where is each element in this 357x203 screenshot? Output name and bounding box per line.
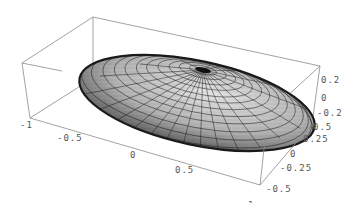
x-tick: 0.5 (175, 165, 194, 175)
z-tick: -0.2 (317, 108, 343, 118)
x-tick: -0.5 (57, 133, 83, 143)
x-tick: -1 (20, 120, 33, 130)
y-tick: -0.5 (266, 184, 292, 194)
x-tick: 1 (248, 200, 254, 203)
ellipsoid-surface (56, 31, 330, 180)
z-tick: 0 (321, 93, 327, 103)
ellipsoid-3d-plot: -1 -0.5 0 0.5 1 -0.5 -0.25 0 0.25 0.5 0.… (0, 0, 357, 203)
y-tick: -0.25 (280, 163, 312, 173)
z-axis-ticks: 0.2 0 -0.2 (317, 75, 343, 118)
y-tick: 0.5 (313, 122, 332, 132)
z-tick: 0.2 (321, 75, 340, 85)
y-tick: 0.25 (303, 134, 329, 144)
x-tick: 0 (130, 150, 136, 160)
y-tick: 0 (290, 149, 296, 159)
